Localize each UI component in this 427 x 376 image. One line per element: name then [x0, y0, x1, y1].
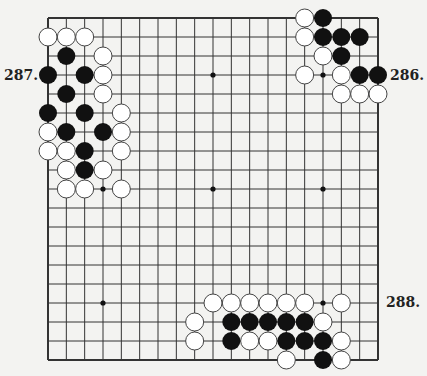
move-label-286: 286. — [390, 68, 424, 82]
white-stone — [76, 180, 94, 198]
white-stone — [112, 104, 130, 122]
black-stone — [76, 104, 94, 122]
black-stone — [57, 47, 75, 65]
white-stone — [314, 313, 332, 331]
white-stone — [332, 85, 350, 103]
star-point — [100, 300, 105, 305]
white-stone — [94, 161, 112, 179]
white-stone — [241, 294, 259, 312]
white-stone — [186, 332, 204, 350]
white-stone — [57, 142, 75, 160]
go-diagram: 287. 286. 288. — [0, 0, 427, 376]
white-stone — [94, 85, 112, 103]
black-stone — [332, 47, 350, 65]
white-stone — [332, 332, 350, 350]
black-stone — [57, 123, 75, 141]
black-stone — [332, 28, 350, 46]
white-stone — [332, 66, 350, 84]
white-stone — [204, 294, 222, 312]
white-stone — [332, 351, 350, 369]
black-stone — [277, 332, 295, 350]
black-stone — [351, 28, 369, 46]
white-stone — [259, 294, 277, 312]
black-stone — [57, 85, 75, 103]
star-point — [210, 72, 215, 77]
white-stone — [241, 332, 259, 350]
white-stone — [57, 180, 75, 198]
black-stone — [314, 28, 332, 46]
star-point — [320, 300, 325, 305]
black-stone — [76, 161, 94, 179]
white-stone — [94, 66, 112, 84]
black-stone — [314, 9, 332, 27]
white-stone — [296, 294, 314, 312]
move-label-288: 288. — [386, 295, 420, 309]
black-stone — [296, 332, 314, 350]
black-stone — [241, 313, 259, 331]
white-stone — [277, 294, 295, 312]
white-stone — [296, 9, 314, 27]
star-point — [210, 186, 215, 191]
white-stone — [112, 123, 130, 141]
white-stone — [57, 161, 75, 179]
white-stone — [222, 294, 240, 312]
white-stone — [296, 28, 314, 46]
star-point — [320, 186, 325, 191]
white-stone — [57, 28, 75, 46]
move-label-287: 287. — [4, 68, 38, 82]
white-stone — [277, 351, 295, 369]
black-stone — [76, 66, 94, 84]
black-stone — [259, 313, 277, 331]
black-stone — [369, 66, 387, 84]
white-stone — [332, 294, 350, 312]
white-stone — [39, 142, 57, 160]
white-stone — [296, 66, 314, 84]
star-point — [100, 186, 105, 191]
black-stone — [39, 66, 57, 84]
go-board — [0, 0, 427, 376]
white-stone — [94, 47, 112, 65]
white-stone — [314, 47, 332, 65]
black-stone — [296, 313, 314, 331]
white-stone — [259, 332, 277, 350]
black-stone — [94, 123, 112, 141]
white-stone — [112, 180, 130, 198]
white-stone — [351, 85, 369, 103]
black-stone — [222, 332, 240, 350]
white-stone — [39, 123, 57, 141]
black-stone — [314, 332, 332, 350]
black-stone — [277, 313, 295, 331]
black-stone — [351, 66, 369, 84]
black-stone — [222, 313, 240, 331]
black-stone — [314, 351, 332, 369]
white-stone — [112, 142, 130, 160]
white-stone — [369, 85, 387, 103]
black-stone — [39, 104, 57, 122]
white-stone — [186, 313, 204, 331]
star-point — [320, 72, 325, 77]
white-stone — [39, 28, 57, 46]
black-stone — [76, 142, 94, 160]
white-stone — [76, 28, 94, 46]
